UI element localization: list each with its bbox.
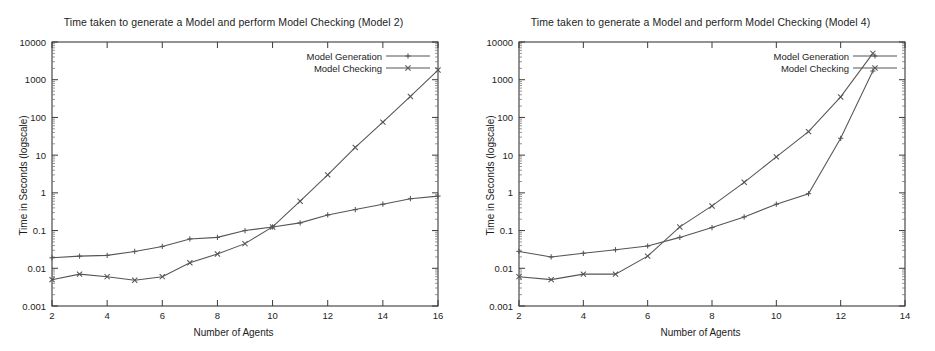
x-tick-label: 12 <box>835 310 846 321</box>
data-point-model-generation <box>549 254 554 259</box>
data-point-model-checking <box>353 145 358 150</box>
data-point-model-checking <box>408 94 413 99</box>
y-tick-label: 100 <box>30 112 46 123</box>
y-tick-label: 10000 <box>20 37 46 48</box>
x-tick-label: 14 <box>378 310 389 321</box>
data-point-model-generation <box>870 68 875 73</box>
x-tick-label: 16 <box>433 310 444 321</box>
series-line-model-checking <box>519 53 873 279</box>
y-tick-label: 0.01 <box>495 263 514 274</box>
x-tick-label: 8 <box>709 310 714 321</box>
data-point-model-generation <box>215 235 220 240</box>
chart-panel-model-4: Time taken to generate a Model and perfo… <box>467 0 934 351</box>
x-tick-label: 8 <box>215 310 220 321</box>
y-tick-label: 0.1 <box>33 225 46 236</box>
x-tick-label: 2 <box>516 310 521 321</box>
x-tick-label: 14 <box>900 310 911 321</box>
y-tick-label: 10 <box>35 150 46 161</box>
data-point-model-generation <box>516 249 521 254</box>
data-point-model-checking <box>645 254 650 259</box>
data-point-model-checking <box>325 172 330 177</box>
data-point-model-generation <box>408 196 413 201</box>
y-tick-label: 10000 <box>487 37 513 48</box>
data-point-model-checking <box>380 120 385 125</box>
data-point-model-generation <box>132 249 137 254</box>
data-point-model-checking <box>838 94 843 99</box>
data-point-model-generation <box>380 202 385 207</box>
data-point-model-generation <box>709 225 714 230</box>
data-point-model-generation <box>77 254 82 259</box>
x-tick-label: 2 <box>49 310 54 321</box>
y-tick-label: 0.1 <box>500 225 513 236</box>
plot-frame <box>519 42 905 306</box>
data-point-model-checking <box>709 203 714 208</box>
x-axis-label-model-4: Number of Agents <box>467 327 934 338</box>
data-point-model-generation <box>298 220 303 225</box>
x-tick-label: 4 <box>581 310 586 321</box>
data-point-model-checking <box>742 180 747 185</box>
y-tick-label: 0.001 <box>22 301 46 312</box>
plot-area-model-2: 0.0010.010.1110100100010000246810121416M… <box>0 0 467 351</box>
x-tick-label: 6 <box>160 310 165 321</box>
y-tick-label: 100 <box>497 112 513 123</box>
legend-label-0: Model Generation <box>306 51 382 62</box>
data-point-model-generation <box>325 212 330 217</box>
data-point-model-generation <box>353 207 358 212</box>
x-tick-label: 4 <box>104 310 109 321</box>
legend-label-1: Model Checking <box>314 63 382 74</box>
data-point-model-generation <box>613 247 618 252</box>
data-point-model-checking <box>215 251 220 256</box>
data-point-model-checking <box>242 241 247 246</box>
data-point-model-generation <box>49 255 54 260</box>
y-tick-label: 1000 <box>25 74 46 85</box>
data-point-model-generation <box>160 244 165 249</box>
x-tick-label: 10 <box>267 310 278 321</box>
plot-frame <box>52 42 438 306</box>
y-tick-label: 10 <box>502 150 513 161</box>
y-tick-label: 1 <box>41 187 46 198</box>
data-point-model-checking <box>298 199 303 204</box>
series-line-model-checking <box>52 70 438 280</box>
data-point-model-generation <box>187 236 192 241</box>
y-tick-label: 1000 <box>492 74 513 85</box>
data-point-model-generation <box>806 191 811 196</box>
data-point-model-checking <box>677 224 682 229</box>
data-point-model-generation <box>105 253 110 258</box>
data-point-model-generation <box>581 251 586 256</box>
figure-row: Time taken to generate a Model and perfo… <box>0 0 935 351</box>
data-point-model-generation <box>677 235 682 240</box>
data-point-model-generation <box>774 202 779 207</box>
chart-panel-model-2: Time taken to generate a Model and perfo… <box>0 0 467 351</box>
x-tick-label: 6 <box>645 310 650 321</box>
data-point-model-checking <box>806 129 811 134</box>
x-tick-label: 10 <box>771 310 782 321</box>
data-point-model-checking <box>774 154 779 159</box>
legend-label-0: Model Generation <box>773 51 849 62</box>
legend-label-1: Model Checking <box>781 63 849 74</box>
data-point-model-checking <box>187 260 192 265</box>
data-point-model-generation <box>838 136 843 141</box>
series-line-model-generation <box>52 196 438 258</box>
data-point-model-generation <box>742 214 747 219</box>
series-line-model-generation <box>519 71 873 257</box>
data-point-model-generation <box>645 243 650 248</box>
x-axis-label-model-2: Number of Agents <box>0 327 467 338</box>
plot-area-model-4: 0.0010.010.11101001000100002468101214Mod… <box>467 0 934 351</box>
data-point-model-generation <box>242 228 247 233</box>
y-tick-label: 0.01 <box>28 263 47 274</box>
y-tick-label: 1 <box>508 187 513 198</box>
y-tick-label: 0.001 <box>489 301 513 312</box>
x-tick-label: 12 <box>322 310 333 321</box>
